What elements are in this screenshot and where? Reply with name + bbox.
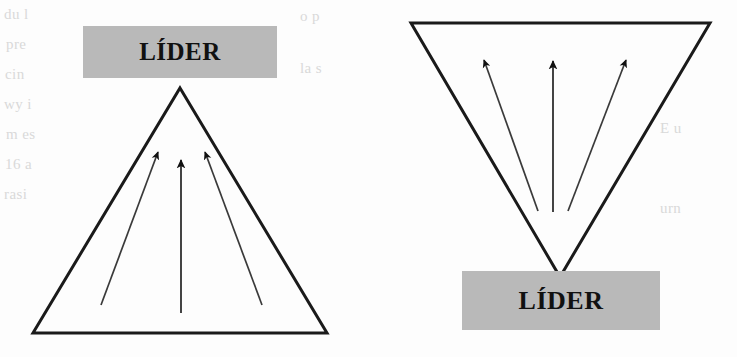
diagram-upward-triangle <box>33 88 327 333</box>
triangle-up-outline <box>33 88 327 333</box>
leader-label-box-right: LÍDER <box>462 271 660 330</box>
figure-canvas: du l pre cin wy i m es 16 a rasi o p la … <box>0 0 737 357</box>
triangle-down-outline <box>411 23 710 277</box>
leader-label-left: LÍDER <box>139 38 221 66</box>
diagram-inverted-triangle <box>411 23 710 277</box>
arrow-down-right <box>568 60 626 211</box>
leader-label-box-left: LÍDER <box>83 26 277 78</box>
leader-label-right: LÍDER <box>519 286 604 316</box>
arrow-down-left <box>484 60 538 211</box>
